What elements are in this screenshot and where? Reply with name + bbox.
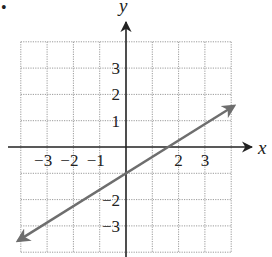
y-axis-label: y xyxy=(117,0,128,16)
x-tick-label: 2 xyxy=(174,151,183,170)
y-tick-label: 3 xyxy=(112,59,121,78)
x-tick-label: −3 xyxy=(34,151,52,170)
x-axis-label: x xyxy=(257,137,267,158)
y-tick-label: 1 xyxy=(112,112,121,131)
coordinate-plane: • x y −3−2−123 321−2−3 xyxy=(0,0,272,257)
x-tick-labels: −3−2−123 xyxy=(34,151,209,170)
y-tick-label: −3 xyxy=(102,217,120,236)
x-tick-label: 3 xyxy=(201,151,210,170)
y-tick-label: 2 xyxy=(112,85,121,104)
x-tick-label: −1 xyxy=(87,151,105,170)
y-tick-label: −2 xyxy=(102,191,120,210)
problem-bullet: • xyxy=(1,0,7,16)
x-tick-label: −2 xyxy=(60,151,78,170)
